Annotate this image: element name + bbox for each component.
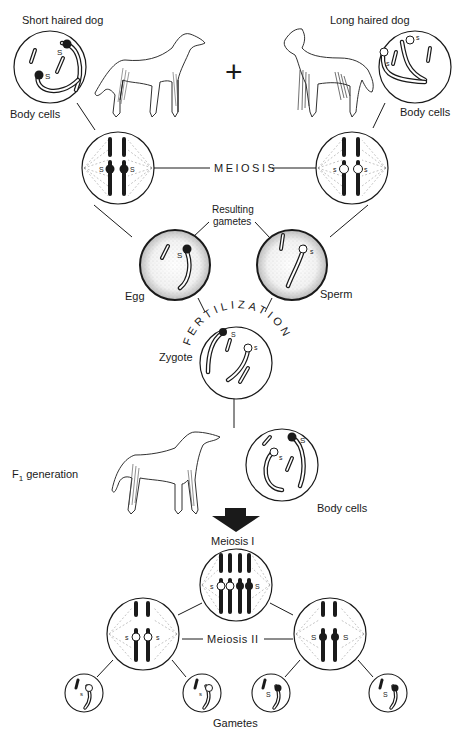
svg-text:S: S: [130, 166, 135, 173]
short-body-cell: S S: [14, 31, 86, 103]
gamete-1: s: [65, 674, 103, 712]
gamete-4: S: [369, 674, 407, 712]
svg-text:s: s: [279, 454, 283, 461]
svg-text:s: s: [416, 34, 420, 41]
gamete-3: S: [252, 674, 290, 712]
short-haired-dog-label: Short haired dog: [22, 14, 103, 26]
meiosis-i-label: Meiosis I: [211, 535, 254, 547]
meiosis-ii-label: Meiosis II: [207, 633, 258, 645]
svg-text:S: S: [311, 633, 316, 642]
svg-text:S: S: [57, 48, 62, 57]
long-body-cell: s s: [379, 31, 451, 103]
short-body-cells-label: Body cells: [10, 108, 61, 120]
egg-cell: S: [140, 230, 210, 300]
svg-text:s: s: [310, 248, 314, 255]
meiosis-cell-short: S S: [82, 132, 154, 204]
svg-text:s: s: [364, 166, 368, 173]
cross-symbol: +: [225, 55, 243, 88]
svg-text:s: s: [254, 344, 258, 351]
sperm-label: Sperm: [320, 288, 352, 300]
genetics-diagram: Short haired dog Long haired dog S S Bod…: [0, 0, 467, 740]
svg-text:S: S: [343, 633, 348, 642]
meiosis-ii-cell-left: s s: [107, 598, 179, 670]
zygote-label: Zygote: [159, 351, 193, 363]
svg-text:S: S: [266, 691, 271, 698]
svg-text:s: s: [210, 583, 214, 590]
f1-generation-label: F1 generation: [12, 468, 78, 483]
meiosis-ii-cell-right: S S: [294, 598, 366, 670]
svg-text:S: S: [99, 166, 104, 173]
f1-body-cells-label: Body cells: [317, 502, 368, 514]
f1-body-cell: S s: [246, 429, 318, 501]
svg-text:s: s: [386, 60, 390, 67]
svg-text:s: s: [80, 691, 83, 697]
svg-text:s: s: [333, 166, 337, 173]
svg-text:s: s: [156, 634, 160, 641]
svg-text:S: S: [45, 72, 50, 81]
short-haired-dog-illustration: [95, 34, 205, 117]
short-dog-shading: [118, 68, 178, 106]
meiosis-label: MEIOSIS: [214, 162, 277, 174]
gamete-2: s: [183, 674, 221, 712]
gametes-label: gametes: [213, 216, 251, 227]
svg-text:S: S: [231, 331, 236, 338]
svg-text:S: S: [177, 251, 182, 260]
svg-text:S: S: [383, 691, 388, 698]
sperm-cell: s: [257, 230, 327, 300]
down-arrow-icon: [212, 508, 260, 532]
long-haired-dog-illustration: [284, 29, 373, 117]
resulting-label: Resulting: [212, 204, 254, 215]
f1-dog-illustration: [112, 432, 220, 514]
long-dog-shading: [298, 70, 350, 110]
gametes-final-label: Gametes: [213, 717, 258, 729]
zygote-cell: S s: [200, 327, 272, 399]
egg-label: Egg: [125, 290, 145, 302]
svg-text:s: s: [199, 691, 202, 697]
long-haired-dog-label: Long haired dog: [330, 14, 410, 26]
svg-text:S: S: [300, 436, 305, 445]
long-body-cells-label: Body cells: [400, 106, 451, 118]
meiosis-cell-long: s s: [316, 132, 388, 204]
svg-text:s: s: [125, 634, 129, 641]
meiosis-i-cell: s S: [200, 549, 272, 621]
svg-text:S: S: [255, 583, 260, 590]
